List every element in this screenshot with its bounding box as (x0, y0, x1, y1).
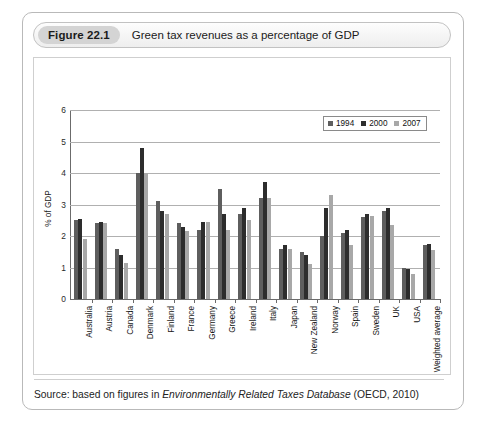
bar-group (297, 110, 318, 299)
y-tick-label: 4 (50, 168, 66, 178)
x-tick-label: Italy (269, 306, 278, 321)
bar-group (358, 110, 379, 299)
bar-group (235, 110, 256, 299)
y-tick-label: 6 (50, 105, 66, 115)
x-tick-label: Denmark (146, 306, 155, 339)
x-tick (174, 299, 175, 303)
bar-group (399, 110, 420, 299)
bar-2007 (185, 231, 189, 299)
bar-group (379, 110, 400, 299)
x-tick-label: Sweden (372, 306, 381, 336)
bar-group (256, 110, 277, 299)
legend-label: 2000 (369, 119, 387, 128)
x-tick-label: France (187, 306, 196, 331)
x-tick (133, 299, 134, 303)
legend-swatch-icon (394, 121, 399, 126)
x-tick (358, 299, 359, 303)
legend-label: 1994 (336, 119, 354, 128)
plot-area (71, 110, 440, 299)
legend-label: 2007 (402, 119, 420, 128)
x-tick-label: USA (413, 306, 422, 323)
x-tick (112, 299, 113, 303)
x-tick (153, 299, 154, 303)
x-tick-label: Finland (167, 306, 176, 333)
bar-2007 (124, 263, 128, 299)
x-tick-label: Ireland (249, 306, 258, 331)
x-tick (297, 299, 298, 303)
x-tick-label: New Zealand (310, 306, 319, 354)
x-tick-label: UK (392, 306, 401, 317)
bar-2007 (308, 264, 312, 299)
bar-2007 (370, 216, 374, 299)
y-tick-label: 2 (50, 231, 66, 241)
y-tick-label: 3 (50, 200, 66, 210)
bar-2007 (267, 198, 271, 299)
bar-2007 (390, 225, 394, 299)
bar-2007 (349, 245, 353, 299)
x-tick-label: Canada (126, 306, 135, 335)
bar-group (276, 110, 297, 299)
bar-2007 (247, 220, 251, 299)
bar-group (215, 110, 236, 299)
x-tick (399, 299, 400, 303)
x-tick (235, 299, 236, 303)
source-suffix: (OECD, 2010) (351, 389, 419, 400)
bar-group (338, 110, 359, 299)
bar-2007 (411, 274, 415, 299)
x-tick (317, 299, 318, 303)
bar-group (174, 110, 195, 299)
x-tick (379, 299, 380, 303)
bar-2007 (144, 173, 148, 299)
x-tick (92, 299, 93, 303)
x-tick-label: Japan (290, 306, 299, 328)
figure-title-bar: Figure 22.1 Green tax revenues as a perc… (33, 22, 451, 48)
legend-item-1994: 1994 (328, 119, 354, 128)
source-prefix: Source: based on figures in (34, 389, 162, 400)
source-caption: Source: based on figures in Environmenta… (34, 379, 444, 400)
bar-group (92, 110, 113, 299)
x-tick (276, 299, 277, 303)
y-tick-label: 1 (50, 263, 66, 273)
x-tick-label: Germany (208, 306, 217, 340)
x-tick (440, 299, 441, 303)
bar-group (71, 110, 92, 299)
bar-2007 (83, 239, 87, 299)
legend-swatch-icon (361, 121, 366, 126)
legend-swatch-icon (328, 121, 333, 126)
bar-group (112, 110, 133, 299)
x-tick-label: Austria (105, 306, 114, 331)
x-tick-label: Australia (85, 306, 94, 338)
bar-group (153, 110, 174, 299)
bar-2007 (206, 222, 210, 299)
bar-group (420, 110, 441, 299)
bar-2007 (103, 223, 107, 299)
legend-item-2007: 2007 (394, 119, 420, 128)
bar-2007 (329, 195, 333, 299)
bar-2007 (165, 214, 169, 299)
bar-group (194, 110, 215, 299)
y-tick-label: 0 (50, 294, 66, 304)
bar-group (133, 110, 154, 299)
x-tick (215, 299, 216, 303)
bar-2007 (431, 250, 435, 299)
bar-2007 (226, 230, 230, 299)
x-tick (420, 299, 421, 303)
figure-card: Figure 22.1 Green tax revenues as a perc… (22, 12, 464, 410)
bar-chart: % of GDP 0123456 AustraliaAustriaCanadaD… (34, 58, 450, 374)
x-tick-label: Spain (351, 306, 360, 327)
x-tick-label: Greece (228, 306, 237, 333)
x-tick (194, 299, 195, 303)
bar-2007 (288, 249, 292, 299)
x-tick-label: Weighted average (433, 306, 442, 372)
legend-item-2000: 2000 (361, 119, 387, 128)
bar-group (317, 110, 338, 299)
chart-plot-frame: % of GDP 0123456 AustraliaAustriaCanadaD… (33, 57, 451, 375)
figure-number: Figure 22.1 (38, 26, 120, 44)
chart-legend: 199420002007 (323, 116, 427, 131)
x-tick (256, 299, 257, 303)
x-tick-label: Norway (331, 306, 340, 334)
y-tick-label: 5 (50, 137, 66, 147)
x-tick (338, 299, 339, 303)
source-title: Environmentally Related Taxes Database (162, 389, 351, 400)
figure-title: Green tax revenues as a percentage of GD… (132, 29, 360, 41)
